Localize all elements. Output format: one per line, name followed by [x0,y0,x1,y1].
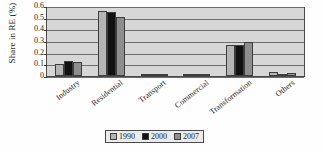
bar-group [183,8,210,76]
bar [235,45,244,77]
y-axis-tick-label: 0.3 [34,37,44,45]
chart-legend: 199020002007 [105,130,204,143]
bar [278,74,287,76]
y-axis-tick-label: 0.5 [34,14,44,22]
bar [150,74,159,76]
bar-group [269,8,296,76]
bar-group [98,8,125,76]
bar [98,11,107,76]
bar [141,74,150,76]
bar [159,74,168,76]
legend-item: 2000 [142,132,167,141]
bar [287,73,296,76]
legend-item: 1990 [110,132,135,141]
legend-swatch [174,133,181,140]
x-axis-category-label: Industry [54,78,81,102]
bar [201,74,210,76]
bar [116,17,125,77]
legend-label: 2007 [183,132,199,141]
x-axis-category-label: Transformation [208,78,254,116]
y-axis-tick-label: 0.1 [34,60,44,68]
bar [55,64,64,76]
legend-item: 2007 [174,132,199,141]
bar-group [226,8,253,76]
legend-swatch [110,133,117,140]
y-axis-tick-label: 0.4 [34,25,44,33]
legend-label: 1990 [119,132,135,141]
y-axis-tick-label: 0.2 [34,49,44,57]
bar [269,72,278,76]
plot-area [46,7,305,77]
x-axis-category-labels: IndustryResidentialTransportCommercialTr… [46,78,305,124]
x-axis-category-label: Transport [137,78,168,105]
y-axis-tick-labels: 0.60.50.40.30.20.10 [24,6,44,76]
bar [107,12,116,76]
bar [226,45,235,77]
bar-groups [47,8,304,76]
bar-chart-figure: Share in RE (%) 0.60.50.40.30.20.10 Indu… [0,0,323,152]
y-axis-title: Share in RE (%) [7,0,17,78]
y-axis-tick-label: 0 [40,72,44,80]
x-axis-category-label: Residential [90,78,125,108]
legend-label: 2000 [151,132,167,141]
x-axis-category-label: Commercial [173,78,210,110]
y-axis-tick-label: 0.6 [34,2,44,10]
bar [183,74,192,76]
bar-group [55,8,82,76]
bar [64,61,73,76]
bar-group [141,8,168,76]
bar [192,74,201,76]
bar [244,42,253,76]
bar [73,62,82,76]
x-axis-category-label: Others [274,78,297,99]
legend-swatch [142,133,149,140]
